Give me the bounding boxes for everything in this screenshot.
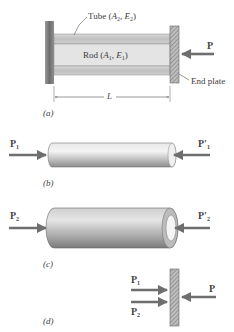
end-plate-label: End plate <box>191 77 225 86</box>
tube-top-wall <box>54 34 170 44</box>
caption-c: (c) <box>43 260 53 269</box>
label-p1-prime: P'1 <box>198 139 210 150</box>
label-p1-sub: 1 <box>16 144 19 150</box>
caption-d: (d) <box>43 317 54 326</box>
end-plate-free-body <box>170 269 179 326</box>
label-d-p2-sub: 2 <box>137 312 140 318</box>
label-d-p1-sub: 1 <box>137 280 140 286</box>
label-p2-sub: 2 <box>16 216 19 222</box>
tube-leader-line <box>74 17 87 35</box>
label-d-p1: P1 <box>131 275 140 286</box>
label-p1-prime-base: P' <box>198 138 207 149</box>
label-d-p2: P2 <box>131 307 140 318</box>
label-p2: P2 <box>10 211 19 222</box>
panel-d-end-plate-free-body <box>131 269 216 326</box>
caption-a: (a) <box>43 109 54 118</box>
panel-b-rod-free-body <box>9 143 210 167</box>
label-p2-prime-base: P' <box>198 210 207 221</box>
label-p1: P1 <box>10 139 19 150</box>
length-label: L <box>107 92 112 101</box>
end-plate <box>170 26 179 83</box>
tube-area-sub: 2 <box>117 16 120 22</box>
tube-label-text: Tube ( <box>88 11 111 21</box>
label-p2-prime-sub: 2 <box>207 216 210 222</box>
panel-a-assembly <box>45 17 214 102</box>
rod-area-sub: 1 <box>109 55 112 61</box>
label-p2-prime: P'2 <box>198 211 210 222</box>
fixed-wall <box>45 21 54 84</box>
panel-c-tube-free-body <box>9 208 210 248</box>
rod-modulus-sub: 1 <box>122 55 125 61</box>
tube-label: Tube (A2, E2) <box>88 12 136 22</box>
rod-label: Rod (A1, E1) <box>83 51 128 61</box>
load-label-p: P <box>207 41 213 51</box>
end-plate-leader-line <box>179 74 189 80</box>
tube-cylinder <box>46 208 178 248</box>
label-p1-prime-sub: 1 <box>207 144 210 150</box>
tube-end-inner <box>166 215 176 241</box>
tube-bottom-wall <box>54 66 170 75</box>
rod-label-text: Rod ( <box>83 50 103 60</box>
tube-modulus-sub: 2 <box>130 16 133 22</box>
label-d-p: P <box>209 284 215 294</box>
caption-b: (b) <box>43 179 54 188</box>
rod-cylinder <box>48 143 176 167</box>
